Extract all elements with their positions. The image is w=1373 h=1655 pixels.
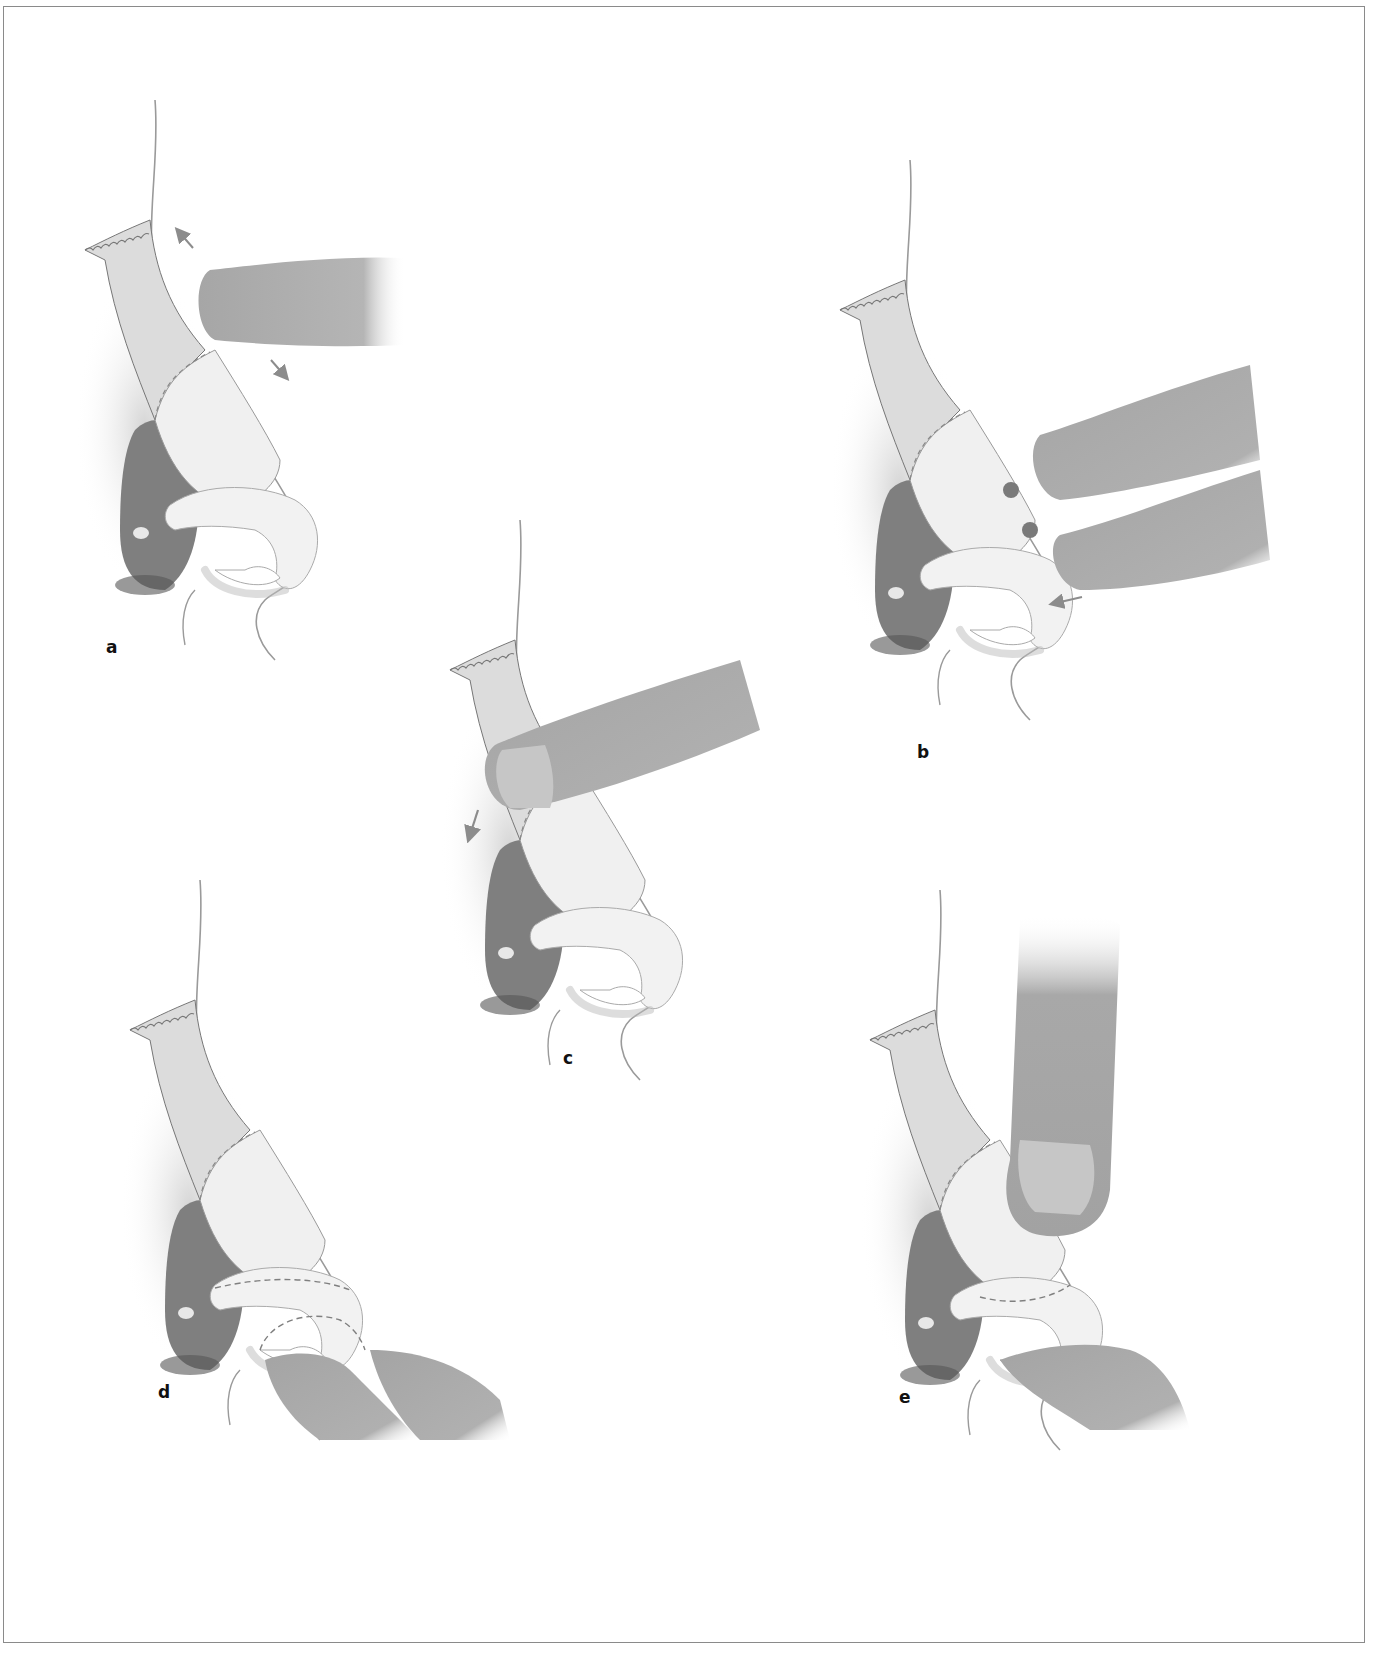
panel-d [120,880,520,1440]
thumbnail-shape [1018,1140,1094,1215]
panel-label-a: a [106,637,117,657]
panel-e-illustration [860,890,1200,1430]
panel-label-d: d [158,1382,170,1402]
finger-upper-shape [1033,365,1260,500]
panel-d-illustration [120,880,520,1440]
panel-b [830,160,1270,730]
panel-e [860,890,1200,1430]
marker-dot-upper-icon [1003,482,1019,498]
finger-shape [199,257,405,346]
panel-label-e: e [899,1387,911,1407]
panel-b-illustration [830,160,1270,730]
arrow-up-icon [180,233,193,248]
panel-label-c: c [563,1048,573,1068]
panel-a [75,100,415,660]
panel-a-illustration [75,100,415,660]
fingernail-shape [496,745,553,808]
finger-shape [1000,1345,1190,1430]
marker-dot-lower-icon [1022,522,1038,538]
arrow-down-icon [271,360,284,375]
panel-label-b: b [917,742,929,762]
